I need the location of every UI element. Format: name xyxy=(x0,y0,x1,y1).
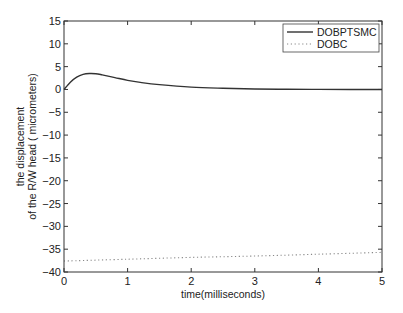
x-tick-label: 4 xyxy=(315,275,321,287)
y-tick-label: −25 xyxy=(42,198,61,210)
y-tick-label: −30 xyxy=(42,220,61,232)
y-tick-label: 15 xyxy=(49,15,61,27)
legend: DOBPTSMCDOBC xyxy=(283,24,379,52)
y-tick-label: −40 xyxy=(42,266,61,278)
y-tick-label: 10 xyxy=(49,38,61,50)
legend-label-dobc: DOBC xyxy=(317,38,348,50)
y-tick-label: 5 xyxy=(55,61,61,73)
y-tick-label: −5 xyxy=(48,106,61,118)
y-tick-label: −35 xyxy=(42,243,61,255)
x-axis-label: time(milliseconds) xyxy=(181,288,265,300)
legend-label-dobptsmc: DOBPTSMC xyxy=(317,26,377,38)
y-tick-label: −15 xyxy=(42,152,61,164)
plot-area xyxy=(64,21,382,272)
y-tick-label: 0 xyxy=(55,83,61,95)
x-tick-label: 0 xyxy=(61,275,67,287)
y-tick-label: −20 xyxy=(42,175,61,187)
y-axis-label-line: the displacement xyxy=(14,107,26,186)
x-tick-label: 2 xyxy=(188,275,194,287)
x-tick-label: 5 xyxy=(379,275,385,287)
y-tick-label: −10 xyxy=(42,129,61,141)
y-axis-label-line: of the R/W head ( micrometers) xyxy=(26,73,38,219)
x-tick-label: 3 xyxy=(252,275,258,287)
y-axis-label: the displacementof the R/W head ( microm… xyxy=(14,73,38,219)
line-chart: 012345 151050−5−10−15−20−25−30−35−40 tim… xyxy=(0,0,403,313)
x-tick-label: 1 xyxy=(125,275,131,287)
